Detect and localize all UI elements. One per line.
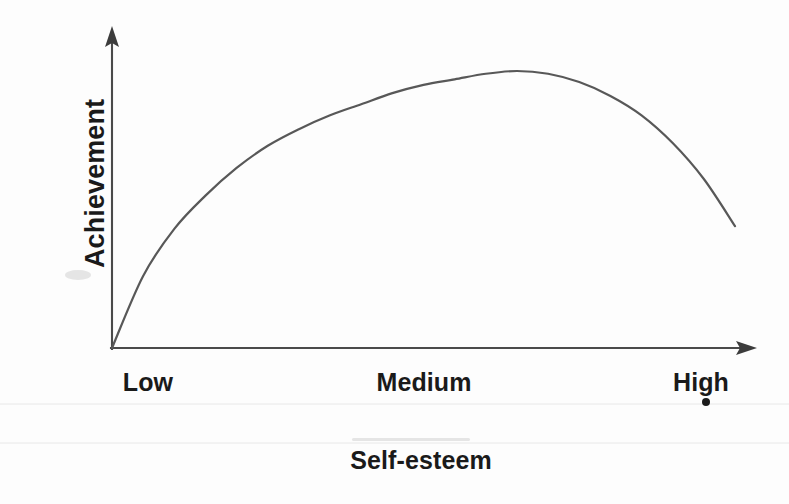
achievement-curve — [112, 71, 735, 348]
ink-dot-artifact — [702, 398, 710, 406]
y-axis-title: Achievement — [82, 99, 109, 268]
x-tick-label-medium: Medium — [376, 370, 471, 395]
x-tick-label-low: Low — [123, 370, 173, 395]
x-tick-label-high: High — [673, 370, 729, 395]
chart-figure: Achievement Low Medium High Self-esteem — [0, 0, 789, 504]
chart-canvas — [0, 0, 789, 504]
scan-smudge-artifact-title — [352, 438, 470, 441]
scan-smudge-artifact-axis — [65, 270, 91, 280]
x-axis-title: Self-esteem — [350, 448, 491, 473]
